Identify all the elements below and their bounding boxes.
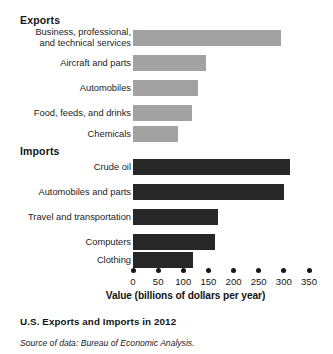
bar-category-label: Computers <box>6 237 131 248</box>
chart-row: Automobiles and parts <box>0 184 333 200</box>
bar-category-label: Crude oil <box>6 162 131 173</box>
bar-imports <box>133 159 290 175</box>
chart-row: Crude oil <box>0 159 333 175</box>
bar-exports <box>133 105 192 121</box>
chart-row: Automobiles <box>0 80 333 96</box>
x-axis-title: Value (billions of dollars per year) <box>0 290 333 301</box>
tick-dot-marker <box>206 268 211 273</box>
tick-dot-marker <box>181 268 186 273</box>
bar-imports <box>133 252 193 268</box>
tick-dot-marker <box>131 268 136 273</box>
tick-dot-marker <box>231 268 236 273</box>
x-axis: Value (billions of dollars per year) 050… <box>0 268 333 308</box>
bar-imports <box>133 209 218 225</box>
tick-dot-marker <box>307 268 312 273</box>
bar-exports <box>133 80 198 96</box>
bar-category-label: Automobiles <box>6 83 131 94</box>
bar-category-label: Travel and transportation <box>6 212 131 223</box>
chart-row: Computers <box>0 234 333 250</box>
tick-dot-marker <box>156 268 161 273</box>
bar-chart-figure: Exports Imports Business, professional, … <box>0 0 333 354</box>
tick-dot-marker <box>256 268 261 273</box>
chart-row: Business, professional, and technical se… <box>0 30 333 46</box>
chart-row: Food, feeds, and drinks <box>0 105 333 121</box>
bar-imports <box>133 234 215 250</box>
x-axis-tick-label: 350 <box>289 276 329 287</box>
bar-exports <box>133 55 206 71</box>
tick-dot-marker <box>281 268 286 273</box>
bar-category-label: Aircraft and parts <box>6 58 131 69</box>
figure-caption: U.S. Exports and Imports in 2012 <box>20 316 176 327</box>
chart-row: Travel and transportation <box>0 209 333 225</box>
bar-category-label: Food, feeds, and drinks <box>6 108 131 119</box>
x-axis-title-text: Value (billions of dollars per year) <box>0 290 333 301</box>
chart-row: Clothing <box>0 252 333 268</box>
bar-exports <box>133 126 178 142</box>
figure-source-note: Source of data: Bureau of Economic Analy… <box>20 338 195 348</box>
bar-category-label: Business, professional, and technical se… <box>6 27 131 48</box>
bar-category-label: Automobiles and parts <box>6 187 131 198</box>
chart-row: Aircraft and parts <box>0 55 333 71</box>
bar-exports <box>133 30 281 46</box>
bar-category-label: Chemicals <box>6 129 131 140</box>
bar-imports <box>133 184 284 200</box>
bar-category-label: Clothing <box>6 255 131 266</box>
chart-row: Chemicals <box>0 126 333 142</box>
